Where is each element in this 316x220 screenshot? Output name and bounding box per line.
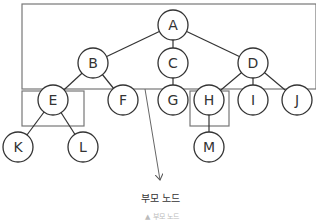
- node-a: A: [158, 10, 188, 40]
- node-f: F: [108, 85, 138, 115]
- node-k: K: [3, 132, 33, 162]
- svg-text:B: B: [88, 55, 98, 71]
- node-l: L: [68, 132, 98, 162]
- svg-text:A: A: [168, 17, 178, 33]
- node-e: E: [38, 85, 68, 115]
- svg-text:M: M: [203, 139, 215, 155]
- callout-label: 부모 노드: [141, 190, 180, 205]
- svg-text:L: L: [79, 139, 87, 155]
- svg-text:C: C: [168, 55, 178, 71]
- node-b: B: [78, 48, 108, 78]
- svg-text:F: F: [119, 92, 127, 108]
- node-g: G: [158, 85, 188, 115]
- node-m: M: [194, 132, 224, 162]
- node-i: I: [238, 85, 268, 115]
- svg-text:E: E: [49, 92, 58, 108]
- svg-text:H: H: [204, 92, 215, 108]
- node-j: J: [282, 85, 312, 115]
- svg-text:J: J: [294, 92, 299, 108]
- svg-text:G: G: [168, 92, 179, 108]
- svg-text:I: I: [251, 92, 255, 108]
- node-d: D: [238, 48, 268, 78]
- tree-diagram: ABCDEFGHIJKLM: [0, 0, 316, 220]
- node-h: H: [194, 85, 224, 115]
- svg-text:K: K: [13, 139, 23, 155]
- node-c: C: [158, 48, 188, 78]
- figure-caption: ▲ 부모 노드: [145, 211, 179, 220]
- svg-text:D: D: [248, 55, 259, 71]
